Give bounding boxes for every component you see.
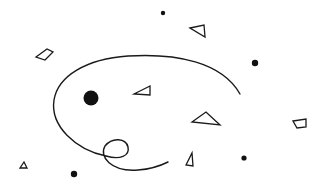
diagram-canvas	[0, 0, 327, 190]
dots-group	[71, 11, 258, 177]
triangle-center-shape	[134, 86, 150, 95]
large-dot	[84, 91, 99, 106]
spiral-loop-curve	[54, 55, 240, 170]
triangle-bottom-center-shape	[186, 153, 193, 166]
quad-right-shape	[293, 119, 306, 128]
triangle-bottom-left-shape	[20, 162, 27, 168]
dot-top	[161, 11, 165, 15]
dot-bottom-right	[241, 155, 246, 160]
triangle-top-right-shape	[190, 25, 205, 37]
dot-right	[252, 60, 258, 66]
quad-top-left-shape	[36, 49, 53, 60]
dot-bottom-left	[71, 171, 77, 177]
triangle-right-large-shape	[192, 112, 220, 125]
shapes-group	[20, 25, 306, 168]
